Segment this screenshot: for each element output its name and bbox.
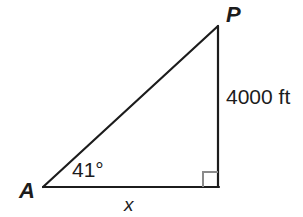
side-length-label-vertical: 4000 ft bbox=[226, 86, 290, 107]
vertex-label-p: P bbox=[226, 4, 241, 26]
vertex-label-a: A bbox=[19, 180, 35, 202]
angle-measure-label-a: 41° bbox=[72, 159, 104, 180]
triangle-figure bbox=[0, 0, 303, 217]
right-angle-marker bbox=[203, 172, 218, 187]
segment-hypotenuse-ap bbox=[43, 26, 218, 187]
geometry-diagram: P A 41° 4000 ft x bbox=[0, 0, 303, 217]
side-length-label-base: x bbox=[124, 195, 134, 214]
